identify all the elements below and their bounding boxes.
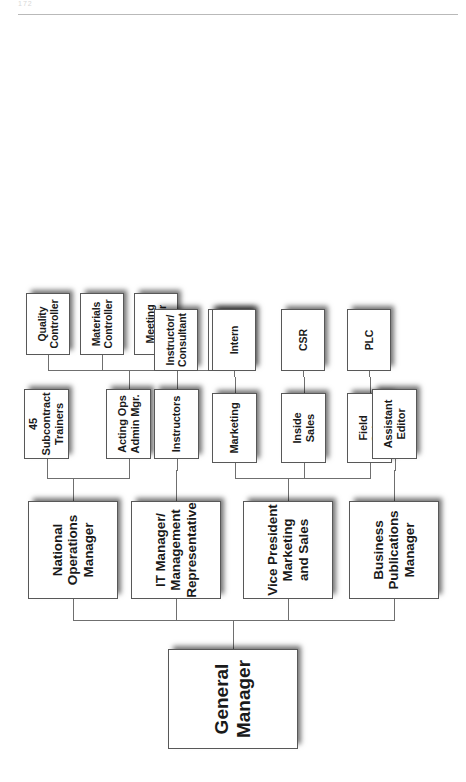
- node-materials-controller[interactable]: Materials Controller: [80, 293, 124, 355]
- node-plc[interactable]: PLC: [347, 309, 391, 371]
- page-header-rule: [18, 14, 458, 15]
- node-vice-president-marketing-and-sales[interactable]: Vice President Marketing and Sales: [243, 501, 333, 599]
- node-quality-controller[interactable]: Quality Controller: [26, 293, 70, 355]
- connector-marketing-stub: [235, 377, 236, 393]
- connector-general-manager-to-vice-president-marketing-and-sales: [288, 599, 289, 621]
- page-folio-number: 172: [18, 0, 33, 7]
- connector-field-sales-to-plc: [369, 371, 370, 377]
- connector-national-operations-manager-to-subcontract-trainers: [47, 459, 48, 479]
- node-assistant-editor[interactable]: Assistant Editor: [372, 389, 417, 459]
- connector-general-manager-to-it-manager-management-representative: [176, 599, 177, 621]
- connector-general-manager-spine: [73, 620, 394, 621]
- org-chart: General Manager National Operations Mana…: [18, 23, 448, 759]
- node-it-manager-management-representative[interactable]: IT Manager/ Management Representative: [131, 501, 221, 599]
- connector-marketing-to-intern: [234, 371, 235, 377]
- connector-general-manager-to-national-operations-manager: [73, 599, 74, 621]
- connector-national-operations-manager-spine: [47, 478, 129, 479]
- connector-general-manager-to-business-publications-manager: [394, 599, 395, 621]
- org-chart-rotor: General Manager National Operations Mana…: [18, 23, 448, 759]
- connector-national-operations-manager-to-acting-ops-admin-mgr: [129, 459, 130, 479]
- connector-national-operations-manager-stub: [73, 479, 74, 501]
- connector-acting-ops-admin-mgr-to-materials-controller: [102, 355, 103, 371]
- connector-inside-sales-to-csr: [303, 371, 304, 377]
- node-acting-ops-admin-mgr[interactable]: Acting Ops Admin Mgr.: [106, 389, 151, 459]
- node-instructors[interactable]: Instructors: [154, 389, 199, 459]
- connector-general-manager-stub: [233, 621, 234, 649]
- connector-business-publications-manager-stub: [394, 471, 395, 501]
- node-subcontract-trainers[interactable]: 45 Subcontract Trainers: [24, 389, 69, 459]
- document-page: 172: [0, 0, 466, 782]
- connector-it-manager-management-representative-to-instructors: [177, 459, 178, 471]
- connector-inside-sales-stub: [304, 377, 305, 393]
- node-intern[interactable]: Intern: [212, 309, 256, 371]
- connector-vice-president-marketing-and-sales-to-marketing: [235, 463, 236, 479]
- node-csr[interactable]: CSR: [281, 309, 325, 371]
- connector-it-manager-management-representative-stub: [176, 471, 177, 501]
- connector-acting-ops-admin-mgr-stub: [129, 371, 130, 389]
- connector-business-publications-manager-to-assistant-editor: [395, 459, 396, 471]
- connector-vice-president-marketing-and-sales-to-field-sales: [370, 463, 371, 479]
- node-instructor-consultant-1[interactable]: Instructor/ Consultant: [154, 309, 198, 371]
- connector-acting-ops-admin-mgr-to-quality-controller: [48, 355, 49, 371]
- connector-vice-president-marketing-and-sales-stub: [288, 479, 289, 501]
- node-national-operations-manager[interactable]: National Operations Manager: [28, 501, 118, 599]
- node-general-manager[interactable]: General Manager: [168, 649, 298, 749]
- node-business-publications-manager[interactable]: Business Publications Manager: [349, 501, 439, 599]
- connector-instructors-stub: [177, 371, 178, 389]
- connector-field-sales-stub: [370, 377, 371, 393]
- node-inside-sales[interactable]: Inside Sales: [281, 393, 326, 463]
- node-marketing[interactable]: Marketing: [212, 393, 257, 463]
- connector-vice-president-marketing-and-sales-to-inside-sales: [304, 463, 305, 479]
- connector-vice-president-marketing-and-sales-spine: [235, 478, 370, 479]
